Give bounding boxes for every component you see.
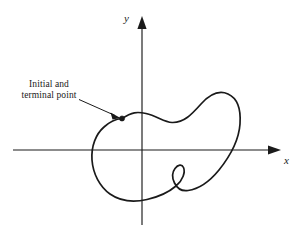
figure-canvas: x y Initial and terminal point bbox=[0, 0, 304, 236]
x-axis-label: x bbox=[283, 154, 289, 166]
curve-diagram-svg: x y bbox=[0, 0, 304, 236]
y-axis-arrowhead bbox=[137, 16, 146, 29]
x-axis bbox=[13, 145, 281, 154]
annotation-leader-line bbox=[79, 100, 115, 116]
x-axis-arrowhead bbox=[268, 145, 281, 154]
annotation-line-2: terminal point bbox=[12, 90, 86, 101]
parametric-curve bbox=[92, 92, 240, 200]
y-axis-label: y bbox=[123, 12, 129, 24]
y-axis bbox=[137, 16, 146, 225]
initial-terminal-point-marker bbox=[119, 116, 124, 121]
annotation-line-1: Initial and bbox=[12, 79, 86, 90]
annotation-leader bbox=[79, 100, 121, 120]
initial-terminal-point-annotation: Initial and terminal point bbox=[12, 79, 86, 100]
